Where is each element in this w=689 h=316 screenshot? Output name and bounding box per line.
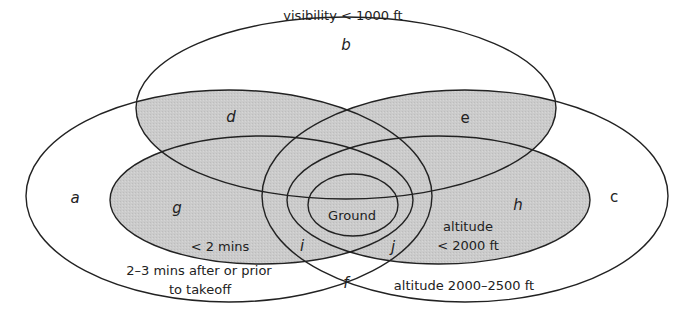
shaded-regions xyxy=(110,17,590,264)
region-j-label: j xyxy=(389,238,396,256)
region-e-label: e xyxy=(460,109,469,127)
altitude-outer-label: altitude 2000–2500 ft xyxy=(394,278,534,293)
time-inner-label: < 2 mins xyxy=(191,239,250,254)
venn-diagram-canvas: visibility < 1000 ft < 2 mins 2–3 mins a… xyxy=(0,0,689,316)
region-a-label: a xyxy=(70,189,79,207)
region-g-label: g xyxy=(172,199,182,217)
altitude-inner-label-line1: altitude xyxy=(443,219,493,234)
region-c-label: c xyxy=(610,188,618,206)
region-b-label: b xyxy=(341,36,351,54)
visibility-label: visibility < 1000 ft xyxy=(283,8,402,23)
ground-label: Ground xyxy=(328,208,376,223)
time-outer-label-line1: 2–3 mins after or prior xyxy=(126,263,272,278)
time-outer-label-line2: to takeoff xyxy=(169,282,232,297)
region-h-label: h xyxy=(513,196,523,214)
altitude-inner-label-line2: < 2000 ft xyxy=(437,238,499,253)
venn-diagram: visibility < 1000 ft < 2 mins 2–3 mins a… xyxy=(0,0,689,316)
region-d-label: d xyxy=(226,108,236,126)
